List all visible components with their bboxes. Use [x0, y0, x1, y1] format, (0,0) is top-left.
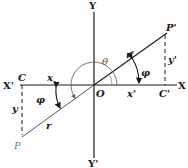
label-c: C	[18, 72, 26, 83]
small-angle-arc	[109, 74, 112, 85]
label-theta: θ	[102, 56, 108, 67]
label-p: P	[13, 140, 21, 151]
label-y-axis: Y	[88, 0, 97, 11]
label-y: y	[11, 103, 19, 114]
label-x-prime: x'	[126, 88, 136, 99]
label-p-prime: P'	[165, 22, 177, 33]
phi-left-arc	[56, 87, 60, 108]
label-y-prime: y'	[167, 54, 177, 65]
label-r: r	[46, 120, 52, 131]
label-origin: O	[96, 88, 105, 99]
label-y-neg-axis: Y'	[87, 158, 98, 168]
phi-right-arc	[132, 58, 139, 83]
line-op	[22, 85, 94, 137]
label-r-prime: r'	[126, 49, 134, 60]
label-c-prime: C'	[159, 88, 170, 99]
diagram-canvas: Y Y' X' X O P' P C C' x x' y y' r r' θ φ…	[0, 0, 188, 168]
label-phi-left: φ	[36, 94, 45, 105]
label-x-neg-axis: X'	[3, 80, 14, 91]
label-x: x	[46, 72, 54, 83]
label-x-axis: X	[178, 80, 186, 91]
label-phi-right: φ	[141, 67, 150, 78]
